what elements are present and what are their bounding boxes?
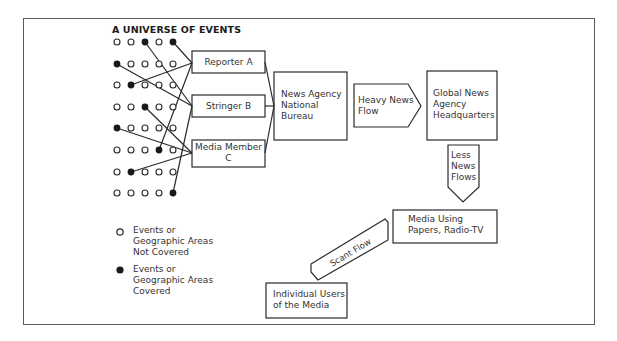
uncovered-event-dot bbox=[128, 39, 134, 45]
covered-event-dot bbox=[156, 147, 163, 154]
stringer-b-label: Stringer B bbox=[192, 101, 265, 112]
uncovered-event-dot bbox=[170, 82, 176, 88]
diagram-title: A UNIVERSE OF EVENTS bbox=[112, 24, 241, 35]
uncovered-event-dot bbox=[170, 61, 176, 67]
less-news-flows-label: Less News Flows bbox=[451, 150, 476, 183]
events-dot-grid bbox=[114, 39, 177, 197]
uncovered-event-dot bbox=[142, 61, 148, 67]
uncovered-event-dot bbox=[142, 82, 148, 88]
uncovered-event-dot bbox=[128, 147, 134, 153]
legend-open-circle-icon bbox=[117, 229, 123, 235]
uncovered-event-dot bbox=[170, 147, 176, 153]
reporter-to-bureau-connectors bbox=[265, 62, 274, 153]
national-bureau-label: News Agency National Bureau bbox=[281, 89, 342, 122]
uncovered-event-dot bbox=[128, 125, 134, 131]
uncovered-event-dot bbox=[142, 190, 148, 196]
uncovered-event-dot bbox=[170, 169, 176, 175]
individual-users-label: Individual Users of the Media bbox=[273, 289, 345, 311]
covered-event-dot bbox=[128, 82, 135, 89]
global-hq-label: Global News Agency Headquarters bbox=[433, 88, 495, 121]
covered-event-dot bbox=[170, 39, 177, 46]
media-member-c-label: Media Member C bbox=[192, 142, 265, 164]
uncovered-event-dot bbox=[156, 125, 162, 131]
uncovered-event-dot bbox=[170, 125, 176, 131]
legend-not-covered: Events or Geographic Areas Not Covered bbox=[133, 225, 213, 258]
uncovered-event-dot bbox=[156, 82, 162, 88]
uncovered-event-dot bbox=[128, 190, 134, 196]
uncovered-event-dot bbox=[142, 147, 148, 153]
legend-filled-circle-icon bbox=[116, 266, 123, 273]
uncovered-event-dot bbox=[114, 39, 120, 45]
covered-event-dot bbox=[142, 39, 149, 46]
reporter-a-label: Reporter A bbox=[192, 57, 265, 68]
uncovered-event-dot bbox=[128, 104, 134, 110]
legend-covered: Events or Geographic Areas Covered bbox=[133, 264, 213, 297]
uncovered-event-dot bbox=[170, 104, 176, 110]
uncovered-event-dot bbox=[156, 61, 162, 67]
uncovered-event-dot bbox=[114, 147, 120, 153]
covered-event-dot bbox=[128, 169, 135, 176]
uncovered-event-dot bbox=[142, 125, 148, 131]
uncovered-event-dot bbox=[114, 104, 120, 110]
uncovered-event-dot bbox=[128, 61, 134, 67]
uncovered-event-dot bbox=[114, 190, 120, 196]
uncovered-event-dot bbox=[114, 82, 120, 88]
uncovered-event-dot bbox=[156, 190, 162, 196]
uncovered-event-dot bbox=[156, 39, 162, 45]
uncovered-event-dot bbox=[156, 169, 162, 175]
covered-event-dot bbox=[114, 61, 121, 68]
uncovered-event-dot bbox=[114, 169, 120, 175]
heavy-news-flow-label: Heavy News Flow bbox=[358, 95, 414, 117]
covered-event-dot bbox=[142, 104, 149, 111]
uncovered-event-dot bbox=[156, 104, 162, 110]
media-using-label: Media Using Papers, Radio-TV bbox=[408, 214, 483, 236]
covered-event-dot bbox=[170, 190, 177, 197]
uncovered-event-dot bbox=[142, 169, 148, 175]
covered-event-dot bbox=[114, 125, 121, 132]
